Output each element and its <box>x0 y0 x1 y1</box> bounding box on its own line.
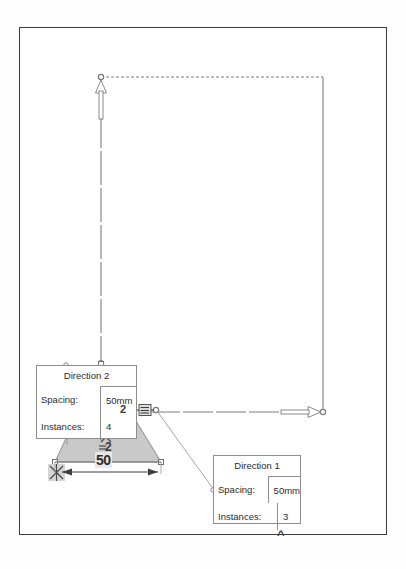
callout-title-direction-2: Direction 2 <box>37 366 136 386</box>
callout-label-instances-direction-2: Instances: <box>37 421 100 432</box>
callout-row-instances-direction-2[interactable]: Instances: 4 <box>37 413 136 440</box>
dimension-value-label[interactable]: 50 <box>95 452 112 468</box>
callout-direction-2[interactable]: Direction 2 Spacing: 50mm Instances: 4 <box>36 365 137 439</box>
leader-line-direction-1 <box>157 411 214 490</box>
callout-label-spacing-direction-1: Spacing: <box>214 484 268 495</box>
callout-value-instances-direction-2[interactable]: 4 <box>100 413 136 440</box>
direction-arrow-right-icon[interactable] <box>281 407 321 418</box>
callout-label-instances-direction-1: Instances: <box>214 511 277 522</box>
instance-count-marker: 2 <box>120 403 126 415</box>
direction-arrow-up-icon[interactable] <box>96 80 107 120</box>
sketch-geometry[interactable] <box>0 0 406 569</box>
callout-row-instances-direction-1[interactable]: Instances: 3 <box>214 503 300 530</box>
callout-value-spacing-direction-1[interactable]: 50mm <box>268 476 300 503</box>
callout-value-instances-direction-1[interactable]: 3 <box>277 503 300 530</box>
callout-label-spacing-direction-2: Spacing: <box>37 394 100 405</box>
sketch-app-root: Direction 2 Spacing: 50mm Instances: 4 D… <box>0 0 406 569</box>
callout-value-spacing-direction-2[interactable]: 50mm <box>100 386 136 413</box>
callout-title-direction-1: Direction 1 <box>214 456 300 476</box>
callout-row-spacing-direction-1[interactable]: Spacing: 50mm <box>214 476 300 503</box>
chevron-up-icon[interactable]: ^ <box>277 527 285 542</box>
callout-direction-1[interactable]: Direction 1 Spacing: 50mm Instances: 3 <box>213 455 301 524</box>
